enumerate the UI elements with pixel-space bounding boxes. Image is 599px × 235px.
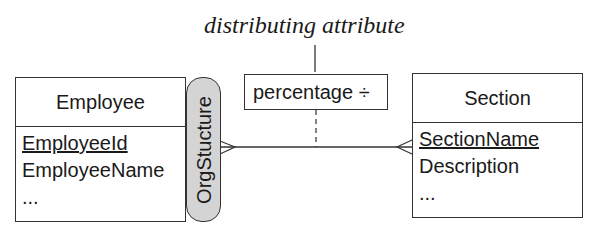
attribute-more: ... [419, 180, 539, 207]
annotation-label: distributing attribute [204, 12, 405, 39]
entity-employee[interactable]: Employee EmployeeId EmployeeName ... [15, 77, 186, 222]
entity-section-attributes: SectionName Description ... [419, 126, 539, 207]
relationship-attribute-box[interactable]: percentage ÷ [244, 74, 388, 110]
entity-section[interactable]: Section SectionName Description ... [412, 73, 583, 218]
entity-employee-name: Employee [16, 78, 185, 127]
entity-section-name: Section [413, 74, 582, 123]
relationship-name: OrgStucture [192, 96, 215, 204]
attribute-sectionname: SectionName [419, 126, 539, 153]
relationship-orgstucture[interactable]: OrgStucture [186, 77, 221, 222]
attribute-more: ... [22, 184, 164, 211]
attribute-employeename: EmployeeName [22, 157, 164, 184]
attribute-employeeid: EmployeeId [22, 130, 164, 157]
entity-employee-attributes: EmployeeId EmployeeName ... [22, 130, 164, 211]
attribute-description: Description [419, 153, 539, 180]
